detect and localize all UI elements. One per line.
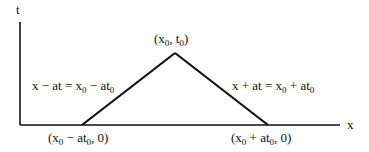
right-foot-label: (x0 + at0, 0) xyxy=(231,131,291,144)
t-axis-label: t xyxy=(16,3,20,16)
left-foot-label: (x0 − at0, 0) xyxy=(48,131,108,144)
x-axis-label: x xyxy=(347,118,354,131)
right-line-equation: x + at = x0 + at0 xyxy=(232,79,314,92)
left-line-equation: x − at = x0 − at0 xyxy=(32,79,114,92)
apex-label: (x0, t0) xyxy=(154,32,188,45)
